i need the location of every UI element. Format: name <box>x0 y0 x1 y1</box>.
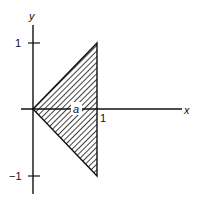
y-tick-label-1: 1 <box>15 37 21 49</box>
diagram: y x 1 −1 1 a <box>0 0 203 202</box>
x-axis-label: x <box>183 104 190 116</box>
region-label: a <box>73 103 79 115</box>
y-axis-label: y <box>28 10 36 22</box>
x-tick-label-1: 1 <box>100 112 106 124</box>
y-tick-label-neg1: −1 <box>9 170 22 182</box>
diagram-canvas: y x 1 −1 1 a <box>0 0 203 202</box>
